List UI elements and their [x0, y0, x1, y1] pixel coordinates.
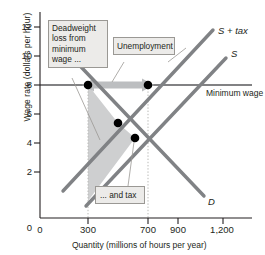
- marker-quantity-demanded: [84, 81, 93, 90]
- x-tick-label-0: 0: [23, 224, 57, 235]
- curve-label-s: S: [231, 48, 237, 59]
- marker-quantity-supplied: [144, 81, 153, 90]
- x-tick-label-1200: 1,200: [205, 224, 239, 235]
- deadweight-loss-callout: Deadweight loss from minimum wage ...: [48, 20, 108, 68]
- tax-callout: ... and tax: [95, 186, 145, 204]
- x-tick-label-300: 300: [71, 224, 105, 235]
- y-tick-label-10: 10: [16, 50, 32, 61]
- curve-label-s-plus-tax: S + tax: [218, 25, 248, 36]
- demand-curve: [63, 48, 204, 196]
- y-tick-label-6: 6: [16, 108, 32, 119]
- y-tick-marks: [34, 27, 40, 172]
- curve-label-d: D: [208, 196, 215, 207]
- marker-equilibrium-with-tax: [114, 119, 123, 128]
- x-axis-label: Quantity (millions of hours per year): [72, 240, 207, 250]
- marker-equilibrium-no-tax: [131, 134, 140, 143]
- unemployment-callout: Unemployment: [113, 37, 175, 55]
- tax-leader-line: [128, 142, 134, 186]
- x-tick-label-900: 900: [161, 224, 195, 235]
- minimum-wage-label: Minimum wage: [206, 88, 263, 99]
- x-tick-label-700: 700: [131, 224, 165, 235]
- chart-figure: Wage rate (dollars per hour) 12 10 8 6 4…: [0, 0, 265, 255]
- y-tick-label-8: 8: [16, 79, 32, 90]
- y-tick-label-12: 12: [16, 21, 32, 32]
- y-tick-label-2: 2: [16, 166, 32, 177]
- unemployment-leader-line: [112, 62, 124, 82]
- y-tick-label-4: 4: [16, 137, 32, 148]
